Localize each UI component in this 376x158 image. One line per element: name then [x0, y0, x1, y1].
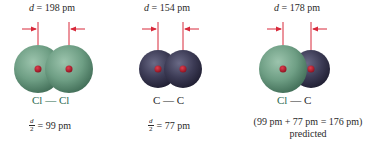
half-distance: d 2 = 99 pm	[29, 118, 71, 133]
bond-label-atom-2: — C	[287, 94, 311, 106]
fraction: d 2	[148, 118, 154, 133]
prediction: (99 pm + 77 pm = 176 pm) predicted	[240, 116, 376, 140]
panel-c-c: d = 154 pm C — C d 2 = 77 pm	[125, 0, 250, 158]
left-arrow	[22, 27, 37, 32]
right-arrow	[70, 27, 85, 32]
left-arrow	[142, 27, 157, 32]
bond-label: C — C	[153, 94, 184, 106]
bond-label: Cl — C	[277, 94, 311, 106]
half-distance: d 2 = 77 pm	[148, 118, 190, 133]
half-distance-value: = 99 pm	[38, 120, 71, 131]
fraction: d 2	[29, 118, 35, 133]
c-c-molecule	[125, 0, 250, 100]
cl-c-molecule	[250, 0, 376, 100]
nucleus	[308, 66, 315, 73]
right-arrow	[312, 27, 327, 32]
right-arrow	[184, 27, 199, 32]
fraction-denominator: 2	[149, 126, 153, 133]
prediction-label: predicted	[240, 128, 376, 140]
nucleus	[280, 66, 287, 73]
left-arrow	[267, 27, 282, 32]
bond-label-atom-1: Cl	[277, 94, 287, 106]
fraction-denominator: 2	[30, 126, 34, 133]
prediction-sum: (99 pm + 77 pm = 176 pm)	[240, 116, 376, 128]
half-distance-value: = 77 pm	[157, 120, 190, 131]
nucleus	[180, 66, 187, 73]
panel-cl-c: d = 178 pm Cl — C (99 pm + 77 pm = 176 p…	[250, 0, 376, 158]
bond-label: Cl — Cl	[32, 94, 69, 106]
panel-cl-cl: d = 198 pm	[0, 0, 125, 158]
nucleus	[66, 66, 73, 73]
nucleus	[35, 66, 42, 73]
nucleus	[155, 66, 162, 73]
cl-cl-molecule	[0, 0, 125, 100]
